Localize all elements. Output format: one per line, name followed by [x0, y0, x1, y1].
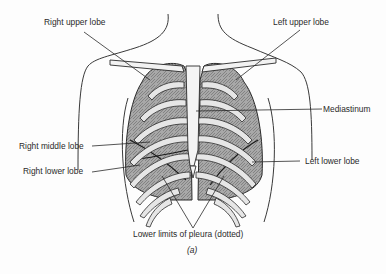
label-right-lower-lobe: Right lower lobe: [23, 167, 83, 175]
thorax-lung-diagram: Right upper lobe Left upper lobe Mediast…: [0, 0, 386, 274]
label-mediastinum: Mediastinum: [323, 105, 370, 113]
label-left-upper-lobe: Left upper lobe: [273, 18, 329, 26]
label-left-lower-lobe: Left lower lobe: [305, 157, 359, 165]
label-right-upper-lobe: Right upper lobe: [44, 18, 105, 26]
figure-caption: (a): [187, 246, 197, 254]
label-right-middle-lobe: Right middle lobe: [19, 142, 84, 150]
label-lower-limits-pleura: Lower limits of pleura (dotted): [133, 230, 243, 238]
